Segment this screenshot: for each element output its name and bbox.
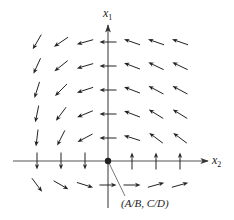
vector-arrow: [33, 35, 41, 50]
vector-arrow: [173, 110, 188, 119]
arrow-shaft: [151, 40, 164, 45]
arrow-shaft: [152, 135, 163, 143]
arrow-shaft: [57, 84, 67, 94]
vector-field-diagram: x1 x2 (A/B, C/D): [0, 0, 234, 220]
vector-arrow: [173, 86, 188, 94]
arrowhead-icon: [149, 133, 155, 138]
arrowhead-icon: [54, 42, 60, 47]
vector-arrow: [149, 110, 164, 119]
vector-arrow: [33, 58, 40, 73]
vector-arrow: [77, 182, 93, 188]
vector-arrow: [124, 39, 140, 45]
equilibrium-point: [105, 158, 111, 164]
arrow-shaft: [151, 111, 163, 118]
vector-arrow: [172, 182, 188, 187]
arrow-shaft: [58, 107, 66, 118]
vector-arrow: [77, 40, 93, 45]
vector-arrow: [172, 62, 187, 69]
vector-arrow: [124, 87, 140, 93]
vector-arrow: [34, 82, 40, 98]
vector-arrow: [148, 39, 164, 45]
arrow-shaft: [127, 112, 140, 117]
vector-arrow: [124, 183, 141, 187]
vector-arrow: [77, 87, 93, 93]
arrowhead-icon: [173, 133, 179, 138]
arrow-shaft: [175, 87, 187, 94]
arrow-shaft: [77, 182, 90, 186]
vector-arrow: [77, 111, 93, 117]
arrow-shaft: [127, 40, 140, 45]
x1-axis-label: x1: [102, 6, 112, 22]
arrow-shaft: [175, 64, 188, 70]
vector-arrow: [55, 84, 67, 96]
label-leader-line: [108, 161, 125, 196]
vector-arrow: [34, 130, 38, 147]
vector-arrow: [124, 63, 140, 69]
vector-arrow: [57, 130, 65, 145]
direction-field-arrows: [32, 35, 188, 192]
arrow-shaft: [54, 181, 66, 188]
vector-arrow: [54, 37, 68, 47]
vector-arrow: [34, 106, 38, 123]
axes: x1 x2: [13, 6, 221, 208]
equilibrium-label: (A/B, C/D): [121, 197, 169, 210]
x2-axis-label: x2: [211, 153, 221, 169]
arrow-shaft: [36, 130, 38, 144]
vector-arrow: [148, 182, 164, 187]
arrow-shaft: [127, 88, 140, 93]
arrow-shaft: [172, 184, 185, 188]
arrow-shaft: [35, 82, 39, 95]
vector-arrow: [56, 107, 66, 121]
arrow-shaft: [56, 37, 68, 45]
vector-arrow: [149, 133, 163, 143]
arrow-shaft: [32, 178, 40, 189]
vector-arrow: [124, 135, 140, 141]
vector-arrow: [32, 178, 42, 192]
arrow-shaft: [151, 64, 164, 70]
vector-arrow: [54, 61, 67, 72]
vector-arrow: [148, 62, 163, 69]
arrowhead-icon: [149, 110, 155, 115]
arrowhead-icon: [37, 186, 42, 192]
arrow-shaft: [175, 40, 188, 45]
vector-arrow: [124, 111, 140, 117]
arrow-shaft: [80, 87, 93, 91]
vector-arrow: [77, 64, 93, 69]
arrow-shaft: [80, 111, 93, 116]
arrow-shaft: [80, 40, 93, 44]
vector-arrow: [78, 134, 93, 142]
arrow-shaft: [57, 61, 68, 70]
vector-arrow: [149, 86, 164, 94]
arrow-shaft: [127, 64, 140, 69]
arrow-shaft: [80, 64, 93, 68]
arrow-shaft: [151, 87, 163, 94]
arrow-shaft: [127, 136, 140, 140]
arrow-shaft: [59, 130, 65, 143]
arrow-shaft: [36, 106, 39, 120]
vector-arrow: [54, 181, 69, 189]
arrow-shaft: [175, 111, 187, 118]
arrow-shaft: [148, 184, 161, 188]
vector-arrow: [173, 133, 187, 143]
arrow-shaft: [34, 35, 41, 47]
arrow-shaft: [35, 58, 41, 71]
arrow-shaft: [176, 135, 187, 143]
arrow-shaft: [80, 134, 92, 141]
arrowhead-icon: [56, 115, 61, 121]
vector-arrow: [172, 39, 188, 45]
arrowhead-icon: [173, 110, 179, 115]
